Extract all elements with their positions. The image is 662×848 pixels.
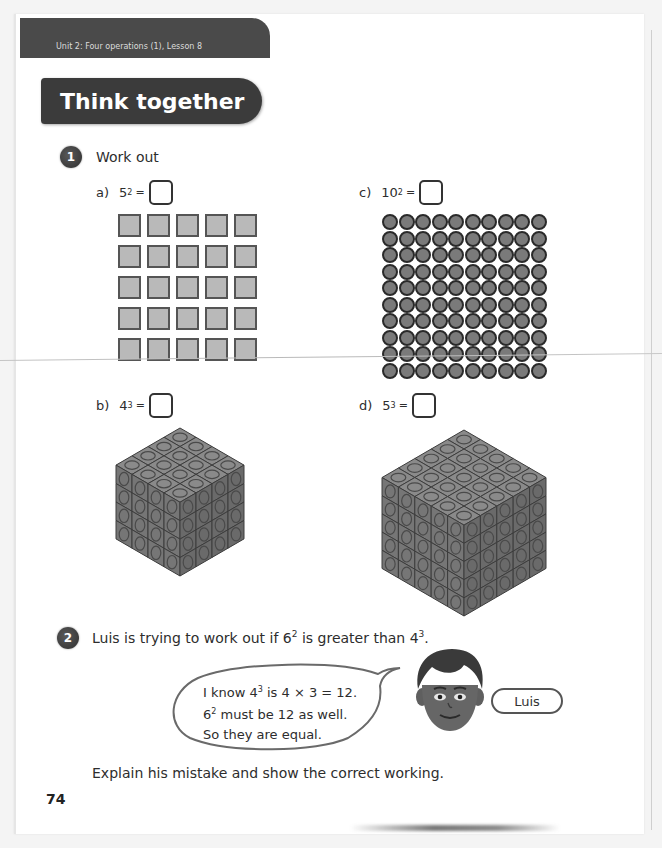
- question-number-badge: 2: [57, 627, 79, 649]
- speech-line-2: 62 must be 12 as well.: [203, 702, 357, 724]
- counter: [415, 363, 431, 379]
- question-prompt: Work out: [96, 149, 159, 165]
- counter: [531, 330, 547, 346]
- counter: [481, 313, 497, 329]
- counter: [448, 346, 464, 362]
- counter: [531, 231, 547, 247]
- page-edge: [14, 14, 16, 834]
- counter: [448, 264, 464, 280]
- square: [205, 276, 228, 299]
- counter: [432, 231, 448, 247]
- answer-box-d[interactable]: [412, 393, 436, 418]
- counter: [415, 330, 431, 346]
- equals-sign: =: [136, 399, 145, 412]
- square: [234, 214, 257, 237]
- page-shadow: [350, 825, 560, 831]
- counter: [399, 231, 415, 247]
- square: [176, 276, 199, 299]
- counter: [465, 264, 481, 280]
- counter: [465, 297, 481, 313]
- counter: [399, 247, 415, 263]
- counter: [481, 264, 497, 280]
- counter: [432, 363, 448, 379]
- answer-box-b[interactable]: [149, 393, 173, 418]
- counter: [432, 214, 448, 230]
- counter: [498, 214, 514, 230]
- square: [176, 307, 199, 330]
- counter: [498, 231, 514, 247]
- question-number-badge: 1: [60, 146, 82, 168]
- equals-sign: =: [135, 186, 144, 199]
- page-edge: [651, 30, 652, 830]
- part-c-label: c) 102 =: [359, 180, 443, 205]
- base: 10: [381, 185, 398, 200]
- counter: [448, 247, 464, 263]
- part-letter: c): [359, 185, 371, 200]
- section-title: Think together: [41, 78, 262, 124]
- counter: [382, 214, 398, 230]
- square: [147, 307, 170, 330]
- counter: [415, 231, 431, 247]
- counter: [514, 363, 530, 379]
- counter: [465, 231, 481, 247]
- counter: [498, 264, 514, 280]
- section-title-text: Think together: [60, 89, 244, 114]
- counter: [448, 363, 464, 379]
- counter: [432, 280, 448, 296]
- counter: [415, 297, 431, 313]
- square: [234, 307, 257, 330]
- unit-header-band: Unit 2: Four operations (1), Lesson 8: [20, 18, 270, 58]
- counter: [514, 247, 530, 263]
- square: [118, 214, 141, 237]
- counter: [382, 346, 398, 362]
- counter: [399, 363, 415, 379]
- counter: [514, 231, 530, 247]
- counter: [415, 280, 431, 296]
- counter: [382, 330, 398, 346]
- counter: [432, 264, 448, 280]
- counter: [481, 231, 497, 247]
- counter: [498, 313, 514, 329]
- counter: [481, 214, 497, 230]
- counter: [531, 264, 547, 280]
- counter: [514, 330, 530, 346]
- counter: [498, 297, 514, 313]
- counter: [382, 231, 398, 247]
- counter: [448, 214, 464, 230]
- character-name: Luis: [514, 694, 540, 709]
- counter: [382, 313, 398, 329]
- counter: [465, 280, 481, 296]
- base: 5: [382, 398, 390, 413]
- counter: [465, 214, 481, 230]
- counter: [382, 264, 398, 280]
- counter: [448, 313, 464, 329]
- luis-character-avatar: [412, 645, 488, 735]
- speech-line-1: I know 43 is 4 × 3 = 12.: [203, 680, 357, 702]
- counter: [514, 214, 530, 230]
- counter: [514, 313, 530, 329]
- part-letter: a): [96, 185, 109, 200]
- counter: [531, 313, 547, 329]
- counter: [382, 297, 398, 313]
- counter: [399, 297, 415, 313]
- base: 5: [119, 185, 127, 200]
- answer-box-a[interactable]: [149, 180, 173, 205]
- base: 4: [119, 398, 127, 413]
- square: [118, 307, 141, 330]
- page-number: 74: [46, 791, 65, 807]
- part-d-label: d) 53 =: [359, 393, 436, 418]
- counter: [531, 247, 547, 263]
- speech-bubble-text: I know 43 is 4 × 3 = 12. 62 must be 12 a…: [203, 680, 357, 744]
- square: [147, 276, 170, 299]
- part-letter: d): [359, 398, 372, 413]
- equals-sign: =: [406, 186, 415, 199]
- prompt-text: is greater than: [297, 630, 409, 646]
- answer-box-c[interactable]: [419, 180, 443, 205]
- counter: [498, 363, 514, 379]
- counter: [415, 313, 431, 329]
- counter: [399, 330, 415, 346]
- base: 4: [249, 685, 257, 700]
- question-number: 1: [67, 150, 75, 164]
- counter: [415, 346, 431, 362]
- counter: [448, 280, 464, 296]
